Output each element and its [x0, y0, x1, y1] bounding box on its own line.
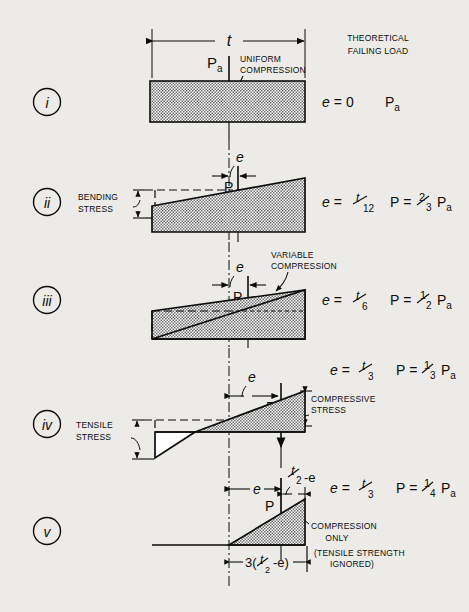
tensile-ignored-line-1: (TENSILE STRENGTH [314, 548, 405, 558]
row-v: v t 2 -e e P COMPRESSION ONLY [34, 463, 457, 588]
load-label-i: Pa [207, 54, 223, 74]
load-denominator-iii: 2 [426, 300, 432, 311]
eccentricity-fraction-iii: t 6 [353, 289, 368, 312]
eccentricity-equation-v: e= [330, 480, 350, 496]
row-iii: iii VARIABLE COMPRESSION e P [34, 242, 453, 348]
compressive-stress-line-2: STRESS [311, 405, 346, 415]
ecc-numerator-iv: t [362, 359, 366, 373]
row-numeral-label-ii: ii [44, 195, 51, 211]
row-numeral-label-i: i [45, 95, 49, 111]
load-denominator-iv: 3 [430, 370, 436, 381]
row-equations-iv: e= t 3 P= 1 3 Pa [330, 359, 456, 382]
load-fraction-ii: 2 3 [417, 191, 432, 213]
failing-load-pa-ii: Pa [437, 194, 452, 213]
load-fraction-iii: 1 2 [417, 289, 432, 311]
row-numeral-ii: ii [34, 189, 61, 216]
failing-load-i: Pa [385, 94, 400, 113]
row-iv: iv e P COMPRESSIVE STRESS TENSILE STRE [34, 348, 457, 468]
uniform-compression-line-1: UNIFORM [240, 54, 281, 64]
ecc-numerator-v: t [362, 477, 366, 491]
bending-stress-line-2: STRESS [78, 204, 113, 214]
ecc-denominator-v: 3 [368, 489, 374, 500]
base-width-suffix: -e) [273, 555, 289, 570]
failing-load-equation-v: P= [396, 480, 418, 496]
load-denominator-v: 4 [430, 488, 436, 499]
half-minus-e-dimension: t 2 -e [283, 463, 316, 500]
variable-compression-annotation: VARIABLE COMPRESSION [271, 250, 337, 291]
base-width-label: 3( t 2 -e) [245, 553, 289, 575]
row-equations-ii: e= t 12 P= 2 3 Pa [322, 191, 452, 214]
eccentricity-equation-iv: e= [330, 362, 350, 378]
eccentricity-equation-iii: e= [322, 292, 342, 308]
failing-load-pa-iv: Pa [441, 362, 456, 381]
tensile-stress-line-1: TENSILE [76, 420, 113, 430]
eccentricity-label-ii: e [236, 149, 244, 165]
load-denominator-ii: 3 [426, 202, 432, 213]
row-numeral-label-v: v [44, 524, 52, 540]
tensile-stress-line-2: STRESS [76, 432, 111, 442]
compression-only-annotation: COMPRESSION ONLY (TENSILE STRENGTH IGNOR… [295, 514, 405, 572]
half-minus-e-suffix: -e [304, 470, 316, 485]
row-numeral-v: v [34, 518, 61, 545]
compression-only-line-2: ONLY [325, 533, 348, 543]
base-width-dimension: 3( t 2 -e) [230, 553, 305, 575]
row-equations-v: e= t 3 P= 1 4 Pa [330, 477, 456, 500]
eccentricity-label-v: e [253, 481, 261, 497]
thickness-label: t [227, 32, 232, 49]
variable-compression-line-2: COMPRESSION [271, 261, 337, 271]
stress-block-iv [155, 391, 305, 458]
eccentricity-label-iii: e [236, 259, 244, 275]
row-i: i t Pa UNIFORM COMPRESSION e=0 [34, 29, 401, 140]
variable-compression-line-1: VARIABLE [271, 250, 314, 260]
base-width-numerator: t [260, 553, 264, 567]
failing-load-equation-iii: P= [390, 292, 412, 308]
row-equations-i: e=0 Pa [322, 94, 400, 113]
row-numeral-i: i [34, 89, 61, 116]
column-header: THEORETICAL FAILING LOAD [347, 33, 409, 56]
stress-block-i [150, 81, 305, 122]
load-fraction-v: 1 4 [422, 477, 436, 499]
header-line-2: FAILING LOAD [348, 46, 409, 56]
ecc-denominator-iii: 6 [362, 301, 368, 312]
eccentricity-fraction-ii: t 12 [353, 191, 375, 214]
figure-canvas: THEORETICAL FAILING LOAD i t Pa UNIFORM … [0, 0, 469, 612]
stress-distribution-diagram: THEORETICAL FAILING LOAD i t Pa UNIFORM … [0, 0, 469, 612]
eccentricity-fraction-v: t 3 [359, 477, 374, 500]
eccentricity-fraction-iv: t 3 [359, 359, 374, 382]
half-minus-e-denominator: 2 [296, 475, 302, 486]
row-ii: ii e P BENDING STRESS [34, 140, 453, 242]
ecc-numerator-iii: t [356, 289, 360, 303]
base-width-denominator: 2 [265, 565, 270, 575]
ecc-denominator-iv: 3 [368, 371, 374, 382]
eccentricity-equation-ii: e= [322, 194, 342, 210]
row-numeral-label-iv: iv [42, 417, 53, 433]
row-numeral-iv: iv [34, 411, 61, 438]
row-numeral-iii: iii [34, 287, 61, 314]
ecc-numerator-ii: t [356, 191, 360, 205]
row-equations-iii: e= t 6 P= 1 2 Pa [322, 289, 452, 312]
failing-load-pa-iii: Pa [437, 292, 452, 311]
eccentricity-equation-i: e=0 [322, 94, 354, 110]
compressive-stress-line-1: COMPRESSIVE [311, 394, 376, 404]
failing-load-equation-ii: P= [390, 194, 412, 210]
load-label-v: P [265, 498, 274, 514]
row-numeral-label-iii: iii [42, 293, 52, 309]
ecc-denominator-ii: 12 [363, 203, 375, 214]
uniform-compression-line-2: COMPRESSION [240, 65, 306, 75]
tensile-ignored-line-2: IGNORED) [330, 559, 374, 569]
failing-load-equation-iv: P= [396, 362, 418, 378]
base-width-coefficient: 3( [245, 555, 257, 570]
bending-stress-line-1: BENDING [78, 192, 118, 202]
compression-only-line-1: COMPRESSION [311, 521, 377, 531]
header-line-1: THEORETICAL [347, 33, 409, 43]
load-fraction-iv: 1 3 [422, 359, 436, 381]
eccentricity-label-iv: e [248, 369, 256, 385]
failing-load-pa-v: Pa [441, 480, 456, 499]
